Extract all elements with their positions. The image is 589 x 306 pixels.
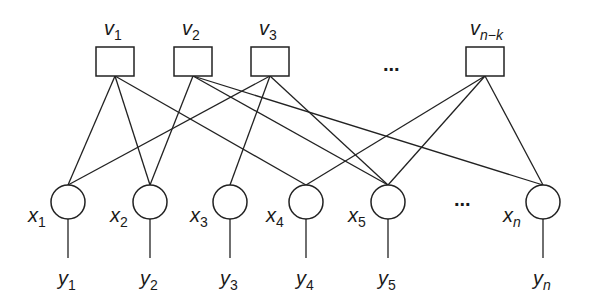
variable-node-label: x2 <box>109 204 128 230</box>
edges <box>68 76 543 185</box>
variable-nodes: x1x2x3x4x5xn <box>27 185 560 230</box>
edge-v2-xn <box>193 76 543 185</box>
observation-label-y4: y4 <box>294 267 314 293</box>
edge-vnk-xn <box>485 76 543 185</box>
variable-node-circle <box>526 185 560 219</box>
variable-node-label: x5 <box>347 204 366 230</box>
edge-v3-x3 <box>230 76 270 185</box>
variable-node-circle <box>51 185 85 219</box>
variable-node-label: x4 <box>265 204 284 230</box>
variable-node-x3: x3 <box>189 185 247 230</box>
variable-node-circle <box>213 185 247 219</box>
variable-node-circle <box>133 185 167 219</box>
check-node-box <box>174 47 212 76</box>
variable-node-x5: x5 <box>347 185 405 230</box>
check-node-label: v3 <box>259 17 277 43</box>
check-node-v2: v2 <box>174 17 212 76</box>
variable-node-x4: x4 <box>265 185 323 230</box>
check-node-box <box>251 47 289 76</box>
observation-label-y1: y1 <box>56 267 76 293</box>
variable-node-xn: xn <box>502 185 560 230</box>
check-node-vnk: vn−k <box>466 17 504 76</box>
observation-labels: y1y2y3y4y5yn <box>56 267 551 293</box>
check-node-v3: v3 <box>251 17 289 76</box>
ellipsis-check-nodes: ... <box>383 53 400 75</box>
variable-node-x2: x2 <box>109 185 167 230</box>
observation-label-yn: yn <box>531 267 551 293</box>
variable-node-circle <box>289 185 323 219</box>
check-node-v1: v1 <box>96 17 134 76</box>
check-node-label: v1 <box>104 17 122 43</box>
edge-v2-x5 <box>193 76 388 185</box>
observation-label-y2: y2 <box>138 267 158 293</box>
check-node-box <box>96 47 134 76</box>
check-node-box <box>466 47 504 76</box>
edge-v1-x1 <box>68 76 115 185</box>
observation-label-y3: y3 <box>218 267 238 293</box>
variable-node-label: x1 <box>27 204 46 230</box>
observation-lines <box>68 219 543 258</box>
factor-graph: v1v2v3vn−k x1x2x3x4x5xn y1y2y3y4y5yn ...… <box>0 0 589 306</box>
variable-node-circle <box>371 185 405 219</box>
variable-node-x1: x1 <box>27 185 85 230</box>
edge-vnk-x5 <box>388 76 485 185</box>
edge-v2-x2 <box>150 76 193 185</box>
check-nodes: v1v2v3vn−k <box>96 17 504 76</box>
variable-node-label: x3 <box>189 204 208 230</box>
variable-node-label: xn <box>502 204 521 230</box>
edge-v3-x1 <box>68 76 270 185</box>
edge-vnk-x4 <box>306 76 485 185</box>
edge-v1-x4 <box>115 76 306 185</box>
edge-v3-x5 <box>270 76 388 185</box>
check-node-label: vn−k <box>470 17 504 43</box>
observation-label-y5: y5 <box>376 267 396 293</box>
check-node-label: v2 <box>182 17 200 43</box>
ellipsis-variable-nodes: ... <box>454 188 471 210</box>
